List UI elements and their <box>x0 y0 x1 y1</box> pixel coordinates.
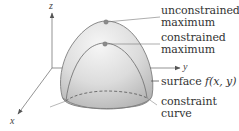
surface-label: surface f(x, y) <box>161 76 236 87</box>
unconstrained-leader <box>106 17 160 22</box>
x-axis <box>18 68 52 114</box>
surface-label-function: f(x, y) <box>205 75 236 88</box>
unconstrained-label-line1: unconstrained <box>161 5 239 16</box>
surface-dome <box>61 21 153 109</box>
z-axis-label: z <box>49 1 53 11</box>
constraint-leader-left <box>50 101 66 107</box>
constraint-label-line1: constraint <box>161 96 217 107</box>
x-axis-label: x <box>10 116 14 126</box>
constrained-label-line2: maximum <box>161 44 215 55</box>
constrained-max-point <box>103 42 107 46</box>
y-axis-label: y <box>183 62 187 72</box>
unconstrained-label-line2: maximum <box>161 17 215 28</box>
unconstrained-max-point <box>104 20 108 24</box>
constraint-label-line2: curve <box>161 108 192 119</box>
surface-label-prefix: surface <box>161 75 205 88</box>
constrained-label-line1: constrained <box>161 32 226 43</box>
constrained-optimization-diagram: z x y unconstrained maximum constrained … <box>0 0 239 131</box>
